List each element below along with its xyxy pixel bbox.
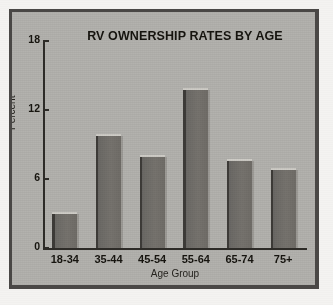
bar [52, 212, 77, 248]
bar-side-face [121, 136, 123, 248]
y-axis-tick-label: 18 [28, 33, 40, 45]
bar [271, 168, 296, 249]
bar-side-face [296, 170, 298, 249]
bar-side-face [208, 90, 210, 248]
bar [140, 155, 165, 248]
bar [227, 159, 252, 248]
bar [96, 134, 121, 248]
x-axis-tick-label: 45-54 [130, 253, 174, 265]
x-axis-tick-label: 75+ [261, 253, 305, 265]
chart-canvas: RV OWNERSHIP RATES BY AGE 061218 Percent… [12, 12, 315, 285]
chart-page: RV OWNERSHIP RATES BY AGE 061218 Percent… [0, 0, 333, 305]
chart-frame: RV OWNERSHIP RATES BY AGE 061218 Percent… [9, 9, 319, 289]
bar-side-face [252, 161, 254, 248]
x-axis-title: Age Group [43, 268, 307, 279]
y-axis-title: Percent [12, 96, 17, 130]
plot-area [43, 41, 305, 248]
x-axis-tick-label: 18-34 [43, 253, 87, 265]
bar-side-face [165, 157, 167, 248]
y-axis-tick-label: 12 [28, 102, 40, 114]
bar-side-face [77, 214, 79, 248]
y-axis-tick-label: 0 [34, 240, 40, 252]
x-axis-line [43, 248, 307, 250]
x-axis-tick-label: 35-44 [87, 253, 131, 265]
bar [183, 88, 208, 248]
x-axis-tick-label: 55-64 [174, 253, 218, 265]
y-axis-tick-label: 6 [34, 171, 40, 183]
x-axis-tick-label: 65-74 [218, 253, 262, 265]
